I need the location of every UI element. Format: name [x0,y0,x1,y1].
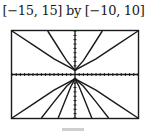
graph-screen [0,0,147,131]
caption-fragment [62,128,84,131]
